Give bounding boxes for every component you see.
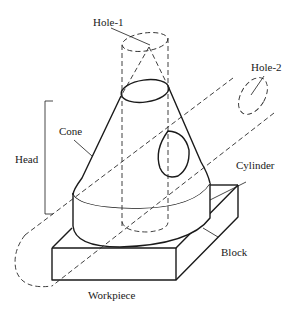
cone-shape — [73, 77, 210, 208]
head-bracket — [45, 101, 53, 214]
hole-2-label: Hole-2 — [251, 62, 282, 73]
hole-1-leader — [111, 28, 150, 45]
block-label: Block — [221, 247, 247, 258]
cylinder-label: Cylinder — [236, 160, 275, 171]
cone-label: Cone — [59, 126, 82, 137]
hole-2-leader — [251, 76, 264, 95]
workpiece-diagram: Hole-1 Hole-2 Cone Head Cylinder Block W… — [0, 0, 297, 324]
cone-leader — [74, 140, 92, 156]
head-label: Head — [15, 154, 38, 165]
hole-1-label: Hole-1 — [93, 17, 124, 28]
workpiece-label: Workpiece — [88, 290, 135, 301]
